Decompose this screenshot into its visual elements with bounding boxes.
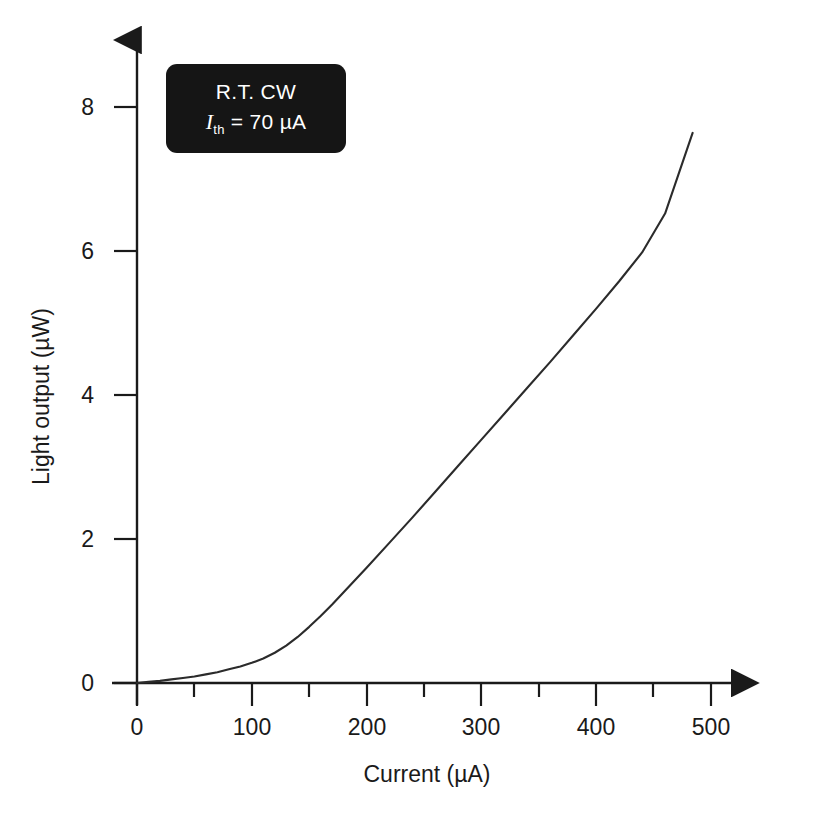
x-tick-label-100: 100 bbox=[212, 714, 292, 741]
x-tick-label-200: 200 bbox=[327, 714, 407, 741]
x-tick-label-500: 500 bbox=[671, 714, 751, 741]
annotation-threshold-label: Ith = 70 µA bbox=[206, 109, 307, 137]
y-axis-title: Light output (µW) bbox=[28, 277, 55, 517]
y-major-ticks bbox=[114, 107, 137, 683]
x-minor-ticks bbox=[194, 683, 653, 697]
plot-area bbox=[0, 0, 817, 821]
figure-container: 0 2 4 6 8 0 100 200 300 400 500 Current … bbox=[0, 0, 817, 821]
x-tick-label-0: 0 bbox=[97, 714, 177, 741]
y-tick-label-0: 0 bbox=[54, 670, 94, 697]
y-tick-label-6: 6 bbox=[54, 238, 94, 265]
threshold-value: = 70 µA bbox=[225, 110, 307, 133]
y-tick-label-4: 4 bbox=[54, 382, 94, 409]
y-tick-label-8: 8 bbox=[54, 94, 94, 121]
x-tick-label-300: 300 bbox=[441, 714, 521, 741]
li-characteristic-curve bbox=[137, 133, 693, 683]
threshold-subscript: th bbox=[213, 122, 224, 137]
y-tick-label-2: 2 bbox=[54, 526, 94, 553]
x-axis-title: Current (µA) bbox=[287, 761, 567, 788]
annotation-box: R.T. CW Ith = 70 µA bbox=[166, 64, 346, 153]
x-tick-label-400: 400 bbox=[556, 714, 636, 741]
annotation-condition-label: R.T. CW bbox=[216, 80, 296, 104]
